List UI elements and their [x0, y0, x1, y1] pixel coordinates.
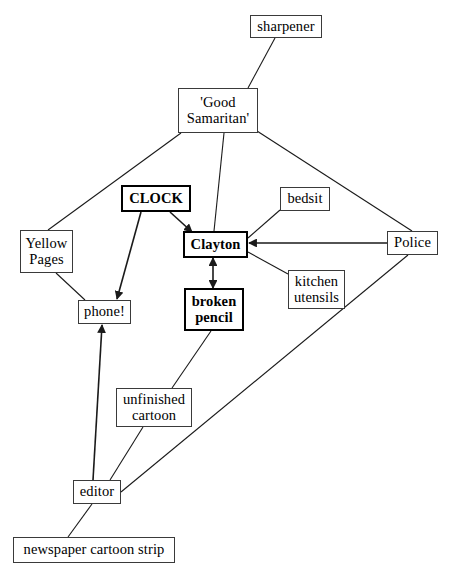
edge-editor-police: [121, 255, 408, 492]
node-label-phone: phone!: [84, 304, 125, 320]
node-label-bedsit: bedsit: [287, 191, 322, 207]
node-label-unfinished-cartoon: unfinished cartoon: [123, 392, 185, 423]
node-label-kitchen-utensils: kitchen utensils: [294, 274, 339, 305]
node-label-clayton: Clayton: [191, 237, 241, 253]
node-label-editor: editor: [80, 484, 114, 500]
edge-good-samaritan-yellow-pages: [48, 133, 181, 230]
edge-good-samaritan-police: [257, 131, 412, 231]
node-label-sharpener: sharpener: [257, 19, 314, 35]
node-broken-pencil[interactable]: broken pencil: [184, 288, 244, 331]
node-kitchen-utensils[interactable]: kitchen utensils: [288, 270, 345, 309]
edge-unfinished-cartoon-editor: [110, 427, 143, 480]
edge-kitchen-utensils-clayton: [248, 252, 288, 274]
node-label-clock: CLOCK: [129, 191, 183, 207]
node-bedsit[interactable]: bedsit: [280, 187, 330, 211]
node-police[interactable]: Police: [387, 231, 438, 255]
node-yellow-pages[interactable]: Yellow Pages: [20, 230, 73, 273]
edge-yellow-pages-phone: [56, 273, 85, 300]
node-good-samaritan[interactable]: 'Good Samaritan': [178, 88, 258, 133]
node-editor[interactable]: editor: [73, 480, 121, 504]
edge-clock-phone: [117, 212, 141, 299]
node-clayton[interactable]: Clayton: [183, 231, 248, 258]
node-sharpener[interactable]: sharpener: [250, 15, 322, 38]
node-label-yellow-pages: Yellow Pages: [26, 236, 68, 267]
edge-editor-phone: [93, 325, 102, 480]
edge-sharpener-good-samaritan: [248, 38, 275, 88]
edge-clock-clayton: [170, 212, 192, 232]
node-newspaper-cartoon-strip[interactable]: newspaper cartoon strip: [13, 537, 175, 563]
node-label-police: Police: [394, 235, 431, 251]
concept-map-diagram: sharpener'Good Samaritan'CLOCKbedsitYell…: [0, 0, 453, 578]
node-phone[interactable]: phone!: [78, 300, 131, 324]
edge-editor-newspaper-cartoon-strip: [68, 504, 92, 537]
node-label-broken-pencil: broken pencil: [192, 294, 237, 325]
edge-bedsit-clayton: [248, 210, 280, 238]
edge-broken-pencil-unfinished-cartoon: [172, 331, 211, 388]
edge-good-samaritan-clayton: [214, 133, 224, 231]
node-label-newspaper-cartoon-strip: newspaper cartoon strip: [24, 542, 165, 558]
node-unfinished-cartoon[interactable]: unfinished cartoon: [116, 388, 192, 427]
node-label-good-samaritan: 'Good Samaritan': [187, 95, 249, 126]
node-clock[interactable]: CLOCK: [121, 185, 191, 212]
